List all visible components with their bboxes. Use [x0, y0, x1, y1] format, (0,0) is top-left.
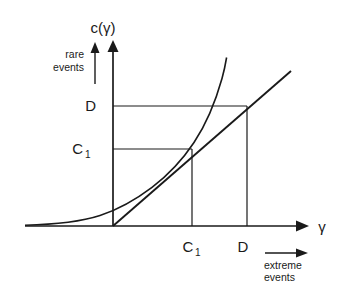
rare-events-annotation: rare events [53, 42, 99, 84]
x-tick-label-C1-subscript: 1 [195, 247, 201, 258]
x-axis-arrowhead [296, 221, 309, 232]
cost-curve [25, 58, 227, 226]
extreme-events-label-line2: events [264, 271, 295, 283]
extreme-events-annotation: extreme events [264, 249, 308, 284]
rare-events-label-line2: events [53, 61, 84, 73]
y-tick-label-C1-subscript: 1 [85, 149, 91, 160]
x-tick-label-D: D [238, 238, 249, 255]
cost-function-diagram: c(γ) γ D C 1 C 1 D rare events extreme e [0, 0, 347, 289]
rare-events-arrow-head [91, 42, 100, 53]
rare-events-label-line1: rare [65, 48, 84, 60]
x-axis-label: γ [318, 218, 326, 235]
y-tick-labels-group: D C 1 [72, 97, 96, 160]
extreme-events-arrow-head [296, 249, 308, 258]
y-tick-label-C1: C [72, 140, 83, 157]
x-tick-label-C1: C [183, 238, 194, 255]
extreme-events-label-line1: extreme [264, 259, 302, 271]
axis-labels-group: c(γ) γ [91, 19, 327, 235]
y-axis-label: c(γ) [91, 19, 116, 36]
y-axis-arrowhead [108, 40, 119, 52]
figure-container: c(γ) γ D C 1 C 1 D rare events extreme e [0, 0, 347, 289]
data-series-group [25, 58, 291, 227]
x-tick-labels-group: C 1 D [183, 238, 249, 258]
y-tick-label-D: D [85, 97, 96, 114]
